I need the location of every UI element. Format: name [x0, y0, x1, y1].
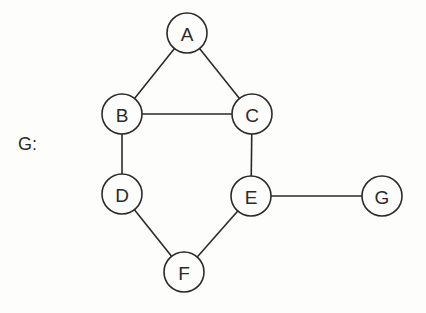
node-label: C — [245, 105, 259, 126]
node-label: F — [178, 263, 190, 284]
graph-diagram: G: ABCDEFG — [0, 0, 426, 313]
graph-canvas: ABCDEFG — [0, 0, 426, 313]
edges-layer — [122, 49, 362, 257]
node-label: A — [181, 24, 194, 45]
edge-c-e — [251, 134, 252, 176]
node-b: B — [102, 94, 142, 134]
node-label: B — [116, 105, 129, 126]
edge-a-b — [135, 49, 175, 99]
edge-d-f — [134, 210, 171, 257]
node-e: E — [231, 176, 271, 216]
node-label: G — [375, 187, 390, 208]
node-g: G — [362, 176, 402, 216]
graph-title-label: G: — [18, 134, 37, 155]
edge-a-c — [200, 49, 240, 99]
node-d: D — [102, 174, 142, 214]
node-c: C — [232, 94, 272, 134]
node-f: F — [164, 252, 204, 292]
node-label: D — [115, 185, 129, 206]
node-label: E — [245, 187, 258, 208]
node-a: A — [167, 13, 207, 53]
edge-e-f — [197, 211, 238, 257]
